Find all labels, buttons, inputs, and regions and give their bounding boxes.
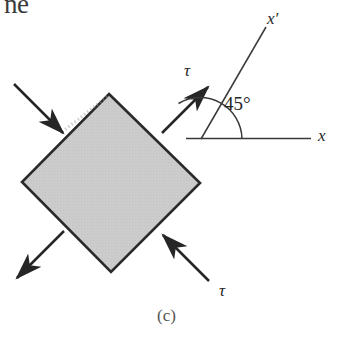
figure-canvas [0,0,340,339]
shear-stress-label-upper: τ [184,62,190,79]
arrow-upper-right [162,87,208,133]
x-prime-axis-label: x′ [267,10,278,27]
stress-element-figure: ne x′ x τ τ 45° (c) [0,0,340,339]
arrow-upper-left [14,84,63,133]
figure-caption: (c) [157,307,176,324]
x-prime-axis-line [201,27,266,139]
clipped-header-text: ne [4,0,28,18]
shear-stress-label-lower: τ [219,282,225,299]
arrow-lower-right [163,235,209,281]
angle-label: 45° [224,94,251,113]
x-axis-label: x [318,127,326,144]
arrow-lower-left [17,231,64,278]
